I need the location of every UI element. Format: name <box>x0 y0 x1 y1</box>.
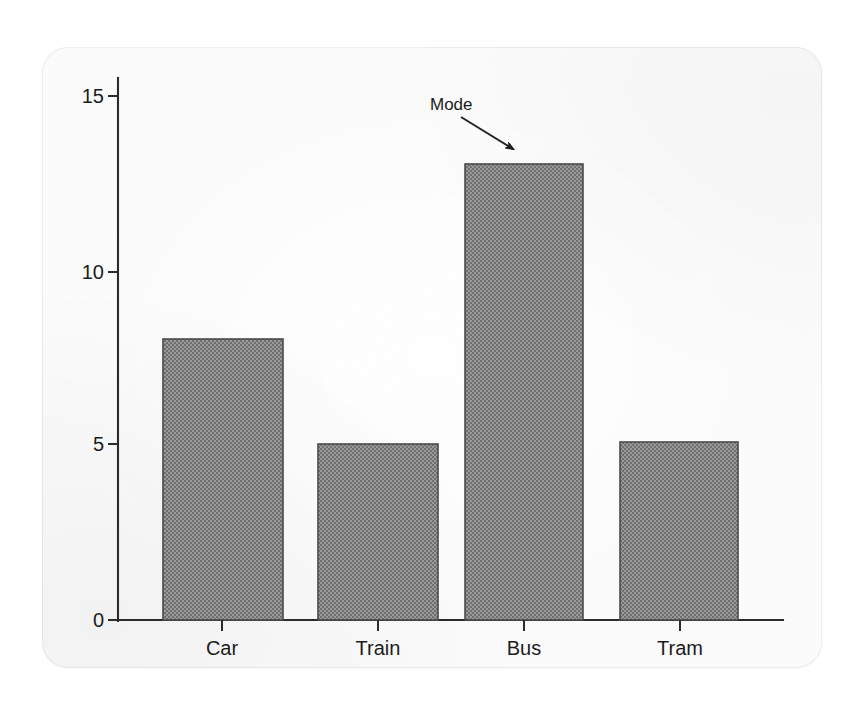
x-tick-label-bus: Bus <box>507 637 541 659</box>
chart-svg: 0 5 10 15 Car Train Bus Tra <box>0 0 864 710</box>
bar-bus[interactable] <box>465 164 583 620</box>
y-tick-label-5: 5 <box>93 433 104 455</box>
y-tick-label-10: 10 <box>82 261 104 283</box>
bar-chart-plot: 0 5 10 15 Car Train Bus Tra <box>0 0 864 710</box>
x-tick-label-train: Train <box>356 637 401 659</box>
bars-group <box>163 164 738 620</box>
bar-car[interactable] <box>163 339 283 620</box>
annotation-label-mode: Mode <box>430 95 473 114</box>
bar-train[interactable] <box>318 444 438 620</box>
y-axis-ticks: 0 5 10 15 <box>82 85 118 631</box>
y-tick-label-0: 0 <box>93 609 104 631</box>
mode-annotation: Mode <box>430 95 513 149</box>
y-tick-label-15: 15 <box>82 85 104 107</box>
chart-screenshot: 0 5 10 15 Car Train Bus Tra <box>0 0 864 710</box>
annotation-arrow-mode <box>461 117 513 149</box>
x-axis-ticks: Car Train Bus Tram <box>206 620 703 659</box>
x-tick-label-car: Car <box>206 637 239 659</box>
x-tick-label-tram: Tram <box>657 637 703 659</box>
bar-tram[interactable] <box>620 442 738 620</box>
